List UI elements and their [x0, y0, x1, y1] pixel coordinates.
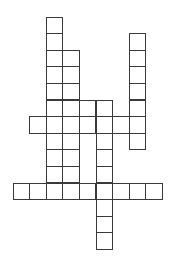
crossword-cell[interactable] — [46, 183, 64, 201]
crossword-cell[interactable] — [112, 116, 130, 134]
crossword-cell[interactable] — [46, 116, 64, 134]
crossword-cell[interactable] — [96, 216, 114, 234]
crossword-cell[interactable] — [129, 116, 147, 134]
crossword-cell[interactable] — [62, 133, 80, 151]
crossword-grid — [0, 0, 174, 271]
crossword-cell[interactable] — [96, 100, 114, 118]
crossword-cell[interactable] — [96, 133, 114, 151]
crossword-cell[interactable] — [62, 66, 80, 84]
crossword-cell[interactable] — [13, 183, 31, 201]
crossword-cell[interactable] — [29, 183, 47, 201]
crossword-cell[interactable] — [129, 33, 147, 51]
crossword-cell[interactable] — [46, 100, 64, 118]
crossword-cell[interactable] — [129, 183, 147, 201]
crossword-cell[interactable] — [96, 183, 114, 201]
crossword-cell[interactable] — [96, 149, 114, 167]
crossword-cell[interactable] — [129, 50, 147, 68]
crossword-cell[interactable] — [62, 100, 80, 118]
crossword-cell[interactable] — [79, 100, 97, 118]
crossword-cell[interactable] — [62, 149, 80, 167]
crossword-cell[interactable] — [62, 183, 80, 201]
crossword-cell[interactable] — [79, 116, 97, 134]
crossword-cell[interactable] — [145, 183, 163, 201]
crossword-cell[interactable] — [46, 33, 64, 51]
crossword-cell[interactable] — [46, 149, 64, 167]
crossword-cell[interactable] — [29, 116, 47, 134]
crossword-cell[interactable] — [96, 166, 114, 184]
crossword-cell[interactable] — [129, 133, 147, 151]
crossword-cell[interactable] — [129, 66, 147, 84]
crossword-cell[interactable] — [62, 83, 80, 101]
crossword-cell[interactable] — [96, 199, 114, 217]
crossword-cell[interactable] — [112, 183, 130, 201]
crossword-cell[interactable] — [46, 66, 64, 84]
crossword-cell[interactable] — [62, 50, 80, 68]
crossword-cell[interactable] — [46, 17, 64, 35]
crossword-cell[interactable] — [46, 50, 64, 68]
crossword-cell[interactable] — [62, 166, 80, 184]
crossword-cell[interactable] — [46, 166, 64, 184]
crossword-cell[interactable] — [46, 133, 64, 151]
crossword-cell[interactable] — [96, 232, 114, 250]
crossword-cell[interactable] — [96, 116, 114, 134]
crossword-cell[interactable] — [46, 83, 64, 101]
crossword-cell[interactable] — [129, 100, 147, 118]
crossword-cell[interactable] — [62, 116, 80, 134]
crossword-cell[interactable] — [79, 183, 97, 201]
crossword-cell[interactable] — [129, 83, 147, 101]
